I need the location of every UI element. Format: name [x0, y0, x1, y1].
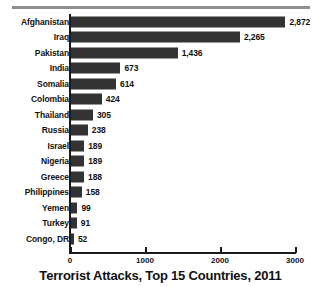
bar-value-label: 305 [97, 110, 111, 120]
bar-row: Somalia614 [0, 76, 321, 92]
category-label: Somalia [37, 79, 69, 89]
bar [70, 233, 74, 244]
bar-value-label: 189 [88, 141, 102, 151]
x-axis-tick [70, 247, 72, 253]
chart-title: Terrorist Attacks, Top 15 Countries, 201… [0, 268, 321, 283]
bar [70, 16, 285, 27]
bar-value-label: 2,265 [244, 32, 265, 42]
bar-value-label: 673 [124, 63, 138, 73]
category-label: Pakistan [35, 48, 69, 58]
category-label: Yemen [42, 203, 69, 213]
x-axis-tick [295, 247, 297, 253]
x-axis-tick [145, 247, 147, 253]
bar-row: Russia238 [0, 123, 321, 139]
x-axis-tick-label: 3000 [286, 256, 304, 265]
bar [70, 171, 84, 182]
category-label: India [50, 63, 69, 73]
y-axis-line [69, 14, 71, 253]
bar-value-label: 99 [81, 203, 90, 213]
bar-value-label: 189 [88, 156, 102, 166]
bar [70, 94, 102, 105]
bar [70, 187, 82, 198]
bar [70, 78, 116, 89]
bar-value-label: 2,872 [289, 17, 310, 27]
x-axis-line [69, 252, 296, 254]
bar-value-label: 158 [86, 187, 100, 197]
x-axis-tick-label: 1000 [136, 256, 154, 265]
category-label: Turkey [42, 218, 69, 228]
x-axis-tick-label: 2000 [211, 256, 229, 265]
bar-row: Yemen99 [0, 200, 321, 216]
category-label: Russia [42, 125, 69, 135]
x-axis-tick-label: 0 [68, 256, 72, 265]
bar [70, 140, 84, 151]
bar-row: Afghanistan2,872 [0, 14, 321, 30]
bar [70, 47, 178, 58]
bar-row: Pakistan1,436 [0, 45, 321, 61]
bar [70, 63, 120, 74]
bar-value-label: 614 [120, 79, 134, 89]
category-label: Philippines [25, 187, 69, 197]
category-label: Thailand [35, 110, 69, 120]
bar-value-label: 424 [106, 94, 120, 104]
bar-row: Congo, DR52 [0, 231, 321, 247]
category-label: Israel [47, 141, 69, 151]
bar-value-label: 188 [88, 172, 102, 182]
bar [70, 125, 88, 136]
bar-row: Thailand305 [0, 107, 321, 123]
bar-row: Turkey91 [0, 216, 321, 232]
bar-chart: Afghanistan2,872Iraq2,265Pakistan1,436In… [0, 0, 321, 287]
category-label: Colombia [31, 94, 69, 104]
bar-value-label: 91 [81, 218, 90, 228]
bar [70, 156, 84, 167]
bar-value-label: 238 [92, 125, 106, 135]
bar [70, 32, 240, 43]
header-rule [12, 6, 310, 9]
bar-row: Colombia424 [0, 92, 321, 108]
plot-area: Afghanistan2,872Iraq2,265Pakistan1,436In… [0, 14, 321, 250]
x-axis-tick [220, 247, 222, 253]
category-label: Nigeria [41, 156, 69, 166]
bar-row: Greece188 [0, 169, 321, 185]
bar-row: India673 [0, 61, 321, 77]
category-label: Congo, DR [26, 234, 69, 244]
bar-row: Iraq2,265 [0, 30, 321, 46]
bar-row: Israel189 [0, 138, 321, 154]
bar-row: Philippines158 [0, 185, 321, 201]
bar-value-label: 1,436 [182, 48, 203, 58]
bar [70, 109, 93, 120]
category-label: Greece [41, 172, 69, 182]
bar [70, 202, 77, 213]
bar [70, 218, 77, 229]
bar-value-label: 52 [78, 234, 87, 244]
bar-row: Nigeria189 [0, 154, 321, 170]
category-label: Iraq [54, 32, 69, 42]
category-label: Afghanistan [21, 17, 69, 27]
